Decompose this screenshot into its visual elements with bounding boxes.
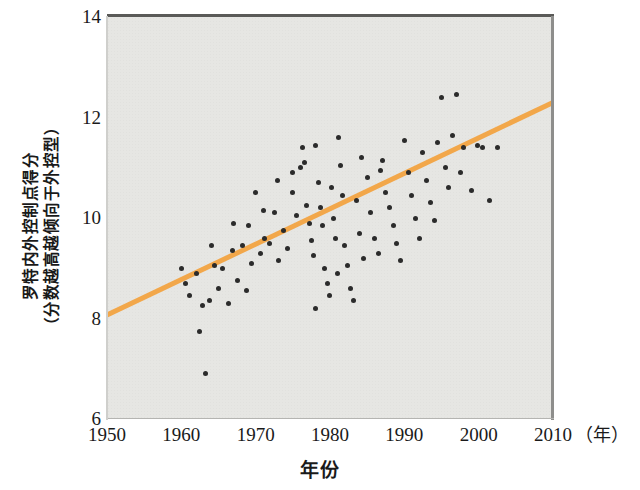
x-axis-tick-label: 1950 [72, 424, 142, 446]
scatter-point [226, 301, 231, 306]
scatter-point [458, 170, 463, 175]
scatter-point [406, 170, 411, 175]
plot-frame-top [107, 14, 554, 17]
scatter-point [335, 271, 340, 276]
scatter-point [340, 193, 345, 198]
scatter-point [338, 163, 343, 168]
scatter-point [424, 178, 429, 183]
scatter-point [380, 158, 385, 163]
scatter-point [357, 231, 362, 236]
scatter-point [197, 329, 202, 334]
scatter-point [212, 263, 217, 268]
scatter-point [432, 218, 437, 223]
y-axis-title-line2: （分数越高越倾向于外控型） [42, 16, 63, 436]
x-axis-tick-label: 2000 [444, 424, 514, 446]
scatter-point [439, 95, 444, 100]
x-axis-tick-label: 1990 [369, 424, 439, 446]
scatter-point [209, 243, 214, 248]
chart-figure: 68101214 罗特内外控制点得分 （分数越高越倾向于外控型） 1950196… [0, 0, 640, 490]
scatter-point [372, 236, 377, 241]
scatter-point [331, 216, 336, 221]
scatter-point [249, 261, 254, 266]
scatter-point [240, 243, 245, 248]
scatter-point [475, 143, 480, 148]
scatter-point [231, 221, 236, 226]
x-axis-title: 年份 [0, 455, 640, 482]
scatter-point [480, 145, 485, 150]
y-axis-tick-label: 10 [57, 208, 101, 227]
scatter-point [179, 266, 184, 271]
scatter-point [216, 286, 221, 291]
scatter-point [246, 223, 251, 228]
scatter-point [316, 180, 321, 185]
scatter-point [262, 236, 267, 241]
x-axis-tick-label: 1970 [221, 424, 291, 446]
scatter-point [294, 213, 299, 218]
y-axis-title-line1: 罗特内外控制点得分 [21, 16, 42, 436]
scatter-point [495, 145, 500, 150]
x-axis-tick-label: 1980 [295, 424, 365, 446]
scatter-point [307, 221, 312, 226]
scatter-point [391, 223, 396, 228]
scatter-point [258, 251, 263, 256]
y-axis-tick-label: 8 [57, 309, 101, 328]
scatter-point [443, 165, 448, 170]
x-axis-unit: （年） [575, 424, 629, 446]
scatter-point [376, 251, 381, 256]
plot-area [107, 17, 553, 419]
scatter-point [194, 271, 199, 276]
scatter-point [290, 170, 295, 175]
x-axis: 1950196019701980199020002010 [0, 424, 640, 454]
y-axis-title: 罗特内外控制点得分 （分数越高越倾向于外控型） [21, 16, 63, 436]
scatter-point [365, 175, 370, 180]
x-axis-tick-label: 1960 [146, 424, 216, 446]
scatter-point [361, 256, 366, 261]
plot-frame-right [551, 16, 554, 420]
y-axis-tick-label: 14 [57, 7, 101, 26]
scatter-point [267, 241, 272, 246]
trendline [107, 17, 553, 419]
scatter-point [378, 168, 383, 173]
scatter-point [261, 208, 266, 213]
scatter-point [203, 371, 208, 376]
scatter-point [281, 228, 286, 233]
scatter-point [450, 133, 455, 138]
scatter-point [285, 246, 290, 251]
scatter-point [313, 306, 318, 311]
scatter-point [359, 155, 364, 160]
scatter-point [417, 236, 422, 241]
plot-frame-left [106, 16, 108, 420]
scatter-point [413, 216, 418, 221]
y-axis-tick-label: 12 [57, 108, 101, 127]
plot-frame-bottom [107, 418, 554, 419]
scatter-point [402, 138, 407, 143]
scatter-point [325, 281, 330, 286]
scatter-point [309, 238, 314, 243]
scatter-point [336, 135, 341, 140]
scatter-point [469, 188, 474, 193]
trendline-path [107, 102, 553, 315]
